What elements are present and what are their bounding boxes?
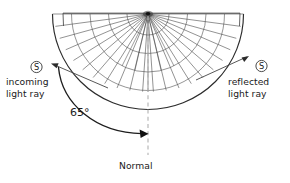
- reflected-light-ray-label: reflected light ray: [228, 76, 269, 99]
- reflected-label-line-2: light ray: [228, 88, 269, 100]
- incoming-label-line-1: incoming: [6, 76, 49, 88]
- svg-text:S: S: [34, 62, 39, 72]
- incoming-label-line-2: light ray: [6, 88, 49, 100]
- reflected-light-ray-marker-icon: S: [256, 60, 267, 71]
- incoming-light-ray-label: incoming light ray: [6, 76, 49, 99]
- angle-arc-arrow: [59, 68, 149, 138]
- reflected-label-line-1: reflected: [228, 76, 269, 88]
- angle-label: 65°: [70, 107, 90, 119]
- normal-label: Normal: [119, 160, 153, 172]
- incoming-light-ray-marker-icon: S: [31, 61, 42, 72]
- diagram-canvas: S S incoming light ray reflected light r…: [0, 0, 290, 183]
- svg-text:S: S: [259, 61, 264, 71]
